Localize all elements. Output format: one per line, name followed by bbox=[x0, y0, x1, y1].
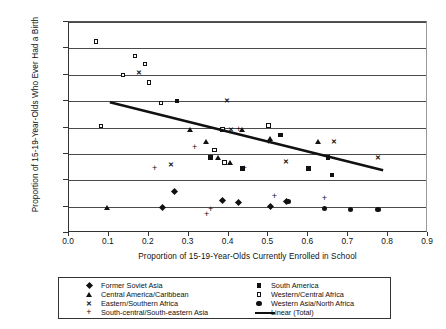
legend-item-label: South America bbox=[271, 281, 318, 290]
x-tick-label: 0.7 bbox=[330, 236, 364, 246]
legend-item: Western Asia/North Africa bbox=[245, 299, 354, 308]
x-tick-label: 0.9 bbox=[410, 236, 444, 246]
marker-dot-icon bbox=[256, 301, 261, 306]
legend-item-label: Eastern/Southern Africa bbox=[101, 299, 178, 308]
legend-item: +South-central/South-eastern Asia bbox=[75, 308, 208, 317]
legend-symbol bbox=[253, 290, 265, 299]
trendline-linear-total bbox=[68, 21, 427, 232]
legend-item-label: Former Soviet Asia bbox=[101, 281, 163, 290]
legend-item: Former Soviet Asia bbox=[75, 281, 208, 290]
x-tick-mark bbox=[427, 232, 428, 236]
legend-column-right: South AmericaWestern/Central AfricaWeste… bbox=[245, 281, 354, 317]
legend-symbol bbox=[253, 281, 265, 290]
legend-item-label: Western/Central Africa bbox=[271, 290, 344, 299]
legend-item-label: Western Asia/North Africa bbox=[271, 299, 354, 308]
legend-symbol bbox=[253, 308, 265, 317]
legend-symbol bbox=[83, 290, 95, 299]
marker-open-square-icon bbox=[257, 292, 261, 296]
legend-line-icon bbox=[255, 312, 275, 314]
trendline-segment bbox=[110, 102, 383, 170]
legend-item: ✕Eastern/Southern Africa bbox=[75, 299, 208, 308]
chart-legend: Former Soviet AsiaCentral America/Caribb… bbox=[58, 277, 391, 319]
legend-column-left: Former Soviet AsiaCentral America/Caribb… bbox=[75, 281, 208, 317]
x-tick-label: 0.4 bbox=[211, 236, 245, 246]
marker-square-icon bbox=[257, 283, 261, 287]
legend-item-label: South-central/South-eastern Asia bbox=[101, 308, 208, 317]
x-tick-mark bbox=[228, 232, 229, 236]
legend-item: South America bbox=[245, 281, 354, 290]
legend-item: Linear (Total) bbox=[245, 308, 354, 317]
scatter-plot-figure: Proportion of 15-19-Year-Olds Who Ever H… bbox=[0, 0, 446, 329]
x-tick-label: 0.0 bbox=[51, 236, 85, 246]
marker-x-icon: ✕ bbox=[86, 301, 92, 307]
x-tick-label: 0.8 bbox=[370, 236, 404, 246]
legend-item: Western/Central Africa bbox=[245, 290, 354, 299]
legend-symbol bbox=[253, 299, 265, 308]
legend-symbol bbox=[83, 281, 95, 290]
x-tick-mark bbox=[108, 232, 109, 236]
legend-symbol: + bbox=[83, 308, 95, 317]
x-tick-mark bbox=[188, 232, 189, 236]
x-tick-label: 0.3 bbox=[171, 236, 205, 246]
x-tick-label: 0.5 bbox=[250, 236, 284, 246]
x-tick-label: 0.6 bbox=[290, 236, 324, 246]
x-tick-label: 0.2 bbox=[131, 236, 165, 246]
marker-diamond-icon bbox=[85, 282, 92, 289]
x-tick-mark bbox=[148, 232, 149, 236]
x-tick-mark bbox=[307, 232, 308, 236]
x-tick-mark bbox=[68, 232, 69, 236]
legend-item: Central America/Caribbean bbox=[75, 290, 208, 299]
x-tick-mark bbox=[347, 232, 348, 236]
x-tick-label: 0.1 bbox=[91, 236, 125, 246]
legend-item-label: Linear (Total) bbox=[271, 308, 314, 317]
x-tick-mark bbox=[267, 232, 268, 236]
legend-item-label: Central America/Caribbean bbox=[101, 290, 189, 299]
marker-triangle-icon bbox=[86, 292, 92, 297]
marker-plus-icon: + bbox=[86, 309, 93, 316]
x-tick-mark bbox=[387, 232, 388, 236]
